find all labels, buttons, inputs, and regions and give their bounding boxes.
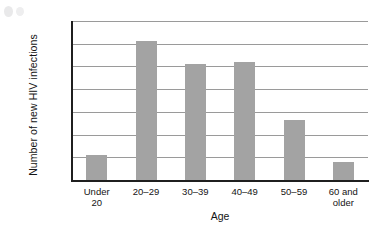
- y-axis-line: [71, 21, 73, 181]
- x-axis-category-label-line: 60 and: [315, 186, 371, 197]
- bar: [136, 41, 157, 180]
- scan-artifact-icon: [16, 7, 24, 16]
- x-axis-category-label: 40–49: [217, 186, 273, 197]
- x-axis-category-label-line: 30–39: [167, 186, 223, 197]
- x-axis-category-label: 30–39: [167, 186, 223, 197]
- x-axis-line: [71, 180, 369, 182]
- bar: [284, 120, 305, 180]
- hiv-infections-bar-chart: Number of new HIV infections 02,0004,000…: [0, 0, 385, 233]
- bar: [234, 62, 255, 180]
- gridline: [72, 21, 368, 22]
- x-axis-category-label: Under20: [69, 186, 125, 208]
- gridline: [72, 112, 368, 113]
- bar: [86, 155, 107, 180]
- x-axis-category-label-line: 50–59: [266, 186, 322, 197]
- gridline: [72, 135, 368, 136]
- plot-area: 02,0004,0006,0008,00010,00012,00014,000 …: [72, 21, 368, 180]
- x-axis-title: Age: [72, 210, 368, 222]
- x-axis-category-label-line: 20: [69, 197, 125, 208]
- x-axis-category-label-line: 20–29: [118, 186, 174, 197]
- gridline: [72, 157, 368, 158]
- scan-artifact-icon: [4, 6, 13, 17]
- x-axis-category-label: 50–59: [266, 186, 322, 197]
- x-axis-category-label-line: Under: [69, 186, 125, 197]
- y-axis-title: Number of new HIV infections: [27, 20, 39, 190]
- gridline: [72, 66, 368, 67]
- bar: [333, 162, 354, 180]
- bar: [185, 64, 206, 180]
- gridline: [72, 89, 368, 90]
- gridline: [72, 44, 368, 45]
- x-axis-category-label-line: older: [315, 197, 371, 208]
- x-axis-category-label: 60 andolder: [315, 186, 371, 208]
- x-axis-category-label: 20–29: [118, 186, 174, 197]
- x-axis-category-label-line: 40–49: [217, 186, 273, 197]
